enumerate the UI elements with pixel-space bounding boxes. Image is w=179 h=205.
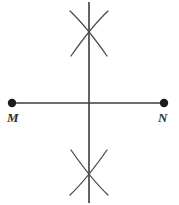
geometry-canvas — [0, 0, 179, 205]
geometry-figure: M N — [0, 0, 179, 205]
point-label-n: N — [158, 111, 167, 124]
endpoint-dot-m — [8, 99, 16, 107]
point-label-m: M — [7, 111, 19, 124]
endpoint-dot-n — [160, 99, 168, 107]
